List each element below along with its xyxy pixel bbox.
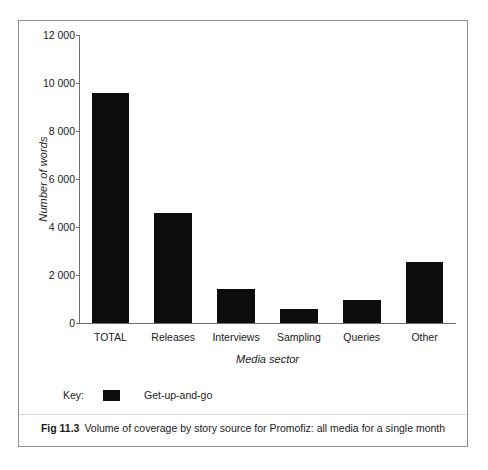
chart-plot-area: Number of words 02 0004 0006 0008 00010 … [19,21,469,371]
x-axis-tick-label: Interviews [205,331,268,343]
bar-column [406,35,444,323]
bar [280,309,318,323]
bar [154,213,192,323]
y-axis-tick-label: 8 000 [19,125,75,137]
x-axis-tick-label: Other [393,331,456,343]
figure-container: Number of words 02 0004 0006 0008 00010 … [18,20,468,447]
y-axis-tick-label: 2 000 [19,269,75,281]
y-axis-tick-label: 6 000 [19,173,75,185]
caption-divider [19,414,467,415]
bar-column [280,35,318,323]
chart-legend: Key: Get-up-and-go [63,389,212,401]
figure-caption-number: Fig 11.3 [41,422,80,434]
bar [217,289,255,323]
y-axis-tick-label: 12 000 [19,29,75,41]
x-axis-line [79,323,456,324]
x-axis-title: Media sector [79,353,456,365]
bar [343,300,381,323]
x-axis-tick-label: Queries [330,331,393,343]
bar [406,262,444,323]
y-axis-tick-label: 10 000 [19,77,75,89]
x-axis-tick-label: TOTAL [79,331,142,343]
bar-column [92,35,130,323]
figure-caption-text: Volume of coverage by story source for P… [84,422,445,434]
y-axis-tick-label: 4 000 [19,221,75,233]
legend-series-label: Get-up-and-go [144,389,212,401]
y-axis-tick-label: 0 [19,317,75,329]
bar-column [154,35,192,323]
bar-column [217,35,255,323]
bar-column [343,35,381,323]
legend-key-label: Key: [63,389,103,401]
x-axis-tick-label: Releases [142,331,205,343]
x-axis-tick-label: Sampling [268,331,331,343]
legend-color-swatch [103,390,120,401]
figure-caption: Fig 11.3Volume of coverage by story sour… [19,421,467,435]
bar [92,93,130,323]
bars-layer [79,35,456,323]
